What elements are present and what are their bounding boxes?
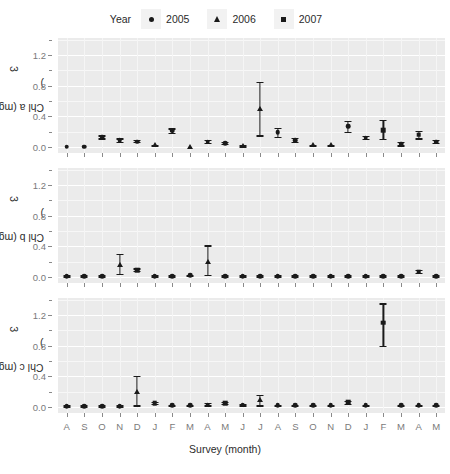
y-tick-label: 1.2 (33, 49, 46, 60)
data-point-square[interactable] (135, 268, 140, 273)
data-point-circle[interactable] (100, 135, 105, 140)
data-point-circle[interactable] (293, 274, 298, 279)
grid-line-vertical (155, 38, 156, 153)
data-point-circle[interactable] (64, 404, 69, 409)
data-point-square[interactable] (346, 400, 351, 405)
data-point-circle[interactable] (100, 404, 105, 409)
data-point-triangle[interactable] (205, 259, 211, 264)
data-point-triangle[interactable] (328, 142, 334, 147)
data-point-triangle[interactable] (134, 389, 140, 394)
data-point-circle[interactable] (170, 274, 175, 279)
data-point-circle[interactable] (276, 130, 281, 135)
x-tick-label: M (221, 421, 229, 432)
data-point-circle[interactable] (64, 145, 69, 150)
data-point-circle[interactable] (399, 403, 404, 408)
data-point-triangle[interactable] (117, 262, 123, 267)
data-point-circle[interactable] (311, 274, 316, 279)
data-point-circle[interactable] (258, 274, 263, 279)
data-point-triangle[interactable] (257, 106, 263, 111)
grid-line-vertical (278, 168, 279, 283)
data-point-circle[interactable] (152, 274, 157, 279)
x-tick (295, 413, 296, 417)
x-tick-label: J (240, 421, 245, 432)
data-point-circle[interactable] (205, 402, 210, 407)
data-point-square[interactable] (381, 320, 386, 325)
grid-line-major (58, 147, 445, 148)
x-tick (260, 153, 261, 157)
data-point-circle[interactable] (346, 124, 351, 129)
data-point-triangle[interactable] (187, 144, 193, 149)
data-point-triangle[interactable] (152, 142, 158, 147)
data-point-circle[interactable] (117, 404, 122, 409)
data-point-circle[interactable] (293, 403, 298, 408)
data-point-circle[interactable] (82, 404, 87, 409)
data-point-circle[interactable] (434, 274, 439, 279)
data-point-square[interactable] (381, 128, 386, 133)
x-tick (383, 153, 384, 157)
data-point-circle[interactable] (170, 403, 175, 408)
data-point-triangle[interactable] (310, 142, 316, 147)
data-point-triangle[interactable] (257, 397, 263, 402)
data-point-circle[interactable] (399, 142, 404, 147)
data-point-circle[interactable] (64, 274, 69, 279)
data-point-circle[interactable] (170, 128, 175, 133)
y-tick-major (48, 185, 52, 186)
grid-line-vertical (208, 298, 209, 413)
y-tick-label: 0.4 (33, 371, 46, 382)
data-point-circle[interactable] (188, 273, 193, 278)
x-tick (243, 413, 244, 417)
grid-line-minor (58, 200, 445, 201)
data-point-circle[interactable] (416, 403, 421, 408)
data-point-circle[interactable] (223, 141, 228, 146)
data-point-square[interactable] (416, 269, 421, 274)
data-point-circle[interactable] (364, 135, 369, 140)
x-tick (419, 153, 420, 157)
data-point-circle[interactable] (311, 403, 316, 408)
data-point-circle[interactable] (240, 402, 245, 407)
data-point-circle[interactable] (82, 145, 87, 150)
data-point-circle[interactable] (381, 274, 386, 279)
data-point-circle[interactable] (346, 274, 351, 279)
data-point-circle[interactable] (293, 138, 298, 143)
data-point-square[interactable] (416, 132, 421, 137)
y-tick-minor (49, 231, 52, 232)
data-point-circle[interactable] (434, 139, 439, 144)
x-tick (331, 283, 332, 287)
data-point-circle[interactable] (328, 403, 333, 408)
data-point-circle[interactable] (276, 403, 281, 408)
data-point-square[interactable] (152, 401, 157, 406)
grid-line-vertical (436, 168, 437, 283)
data-point-circle[interactable] (399, 274, 404, 279)
grid-line-vertical (331, 298, 332, 413)
data-point-circle[interactable] (135, 139, 140, 144)
x-tick (225, 283, 226, 287)
data-point-circle[interactable] (364, 403, 369, 408)
data-point-circle[interactable] (276, 274, 281, 279)
data-point-circle[interactable] (240, 274, 245, 279)
data-point-circle[interactable] (82, 274, 87, 279)
x-tick (278, 413, 279, 417)
legend-key-2006[interactable]: 2006 (207, 9, 269, 29)
legend-key-2007[interactable]: 2007 (274, 9, 336, 29)
error-bar-cap (134, 405, 141, 406)
x-tick-label: D (345, 421, 352, 432)
data-point-circle[interactable] (223, 274, 228, 279)
error-bar-cap (380, 303, 387, 304)
grid-line-vertical (172, 38, 173, 153)
error-bar-cap (257, 82, 264, 83)
error-bar-cap (257, 395, 264, 396)
data-point-circle[interactable] (328, 274, 333, 279)
data-point-circle[interactable] (205, 139, 210, 144)
grid-line-vertical (419, 298, 420, 413)
data-point-triangle[interactable] (240, 143, 246, 148)
x-tick (401, 153, 402, 157)
grid-line-vertical (243, 298, 244, 413)
data-point-circle[interactable] (434, 403, 439, 408)
data-point-circle[interactable] (117, 138, 122, 143)
data-point-circle[interactable] (188, 403, 193, 408)
grid-line-vertical (313, 298, 314, 413)
data-point-square[interactable] (223, 401, 228, 406)
data-point-circle[interactable] (364, 274, 369, 279)
data-point-circle[interactable] (100, 274, 105, 279)
legend-key-2005[interactable]: 2005 (141, 9, 203, 29)
